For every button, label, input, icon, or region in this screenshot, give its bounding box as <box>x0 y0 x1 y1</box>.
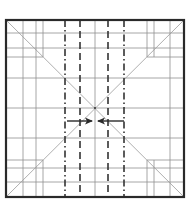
center-point <box>94 107 96 109</box>
origami-diagram <box>0 0 189 206</box>
